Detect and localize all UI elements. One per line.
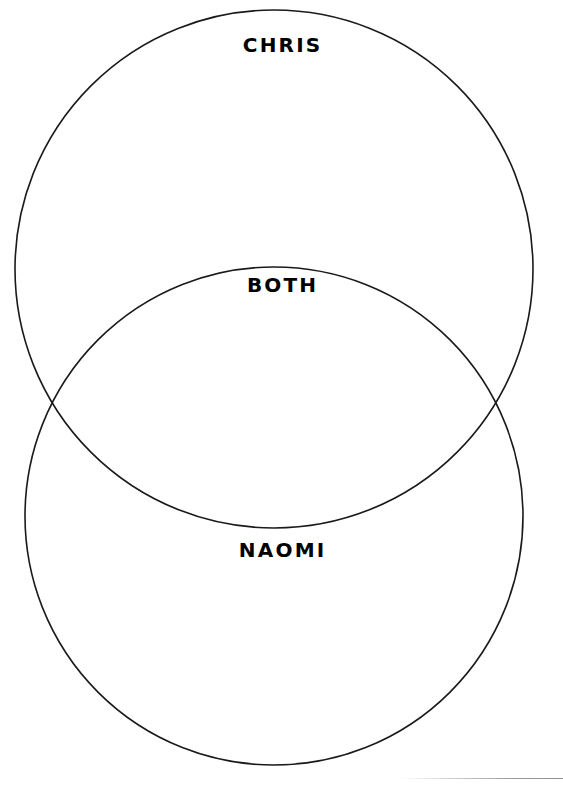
venn-circle-upper-chris[interactable]	[15, 10, 533, 528]
venn-diagram	[0, 0, 563, 785]
worksheet-page: CHRIS BOTH NAOMI	[0, 0, 563, 785]
venn-label-set-a: CHRIS	[0, 35, 563, 55]
venn-label-intersection: BOTH	[0, 275, 563, 295]
venn-circle-lower-naomi[interactable]	[25, 267, 523, 765]
page-edge-rule	[400, 778, 563, 779]
venn-label-set-b: NAOMI	[0, 540, 563, 560]
